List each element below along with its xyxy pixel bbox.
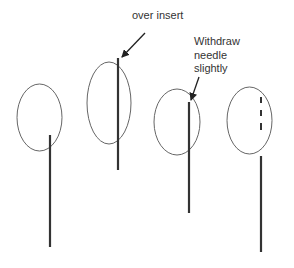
stage-4 [227, 87, 272, 252]
stage-2 [87, 33, 145, 170]
stage-1 [17, 84, 62, 247]
withdraw-label-line-3: slightly [194, 62, 240, 76]
vein-ellipse-2 [87, 62, 131, 144]
withdraw-label-line-1: Withdraw [194, 35, 240, 49]
vein-ellipse-1 [17, 84, 62, 151]
over-insert-arrow [122, 33, 145, 57]
needle-insertion-diagram [0, 0, 294, 268]
over-insert-label: over insert [132, 9, 183, 23]
withdraw-label-line-2: needle [194, 49, 240, 63]
withdraw-needle-label: Withdraw needle slightly [194, 35, 240, 76]
stage-3 [154, 77, 200, 213]
vein-ellipse-4 [227, 87, 272, 154]
vein-ellipse-3 [154, 89, 200, 155]
withdraw-arrow [191, 77, 199, 100]
